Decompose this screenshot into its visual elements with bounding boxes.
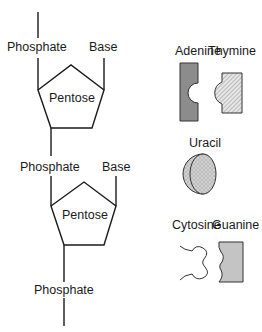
phosphate-label-2: Phosphate <box>20 161 80 174</box>
base-label-2: Base <box>102 161 131 174</box>
nucleotide-2 <box>51 176 116 326</box>
phosphate-label-3: Phosphate <box>34 284 94 297</box>
phosphate-label-1: Phosphate <box>7 41 67 54</box>
guanine-shape <box>219 242 243 282</box>
pentose-label-1: Pentose <box>49 92 95 105</box>
nucleotide-1 <box>38 12 104 156</box>
uracil-body <box>190 154 216 194</box>
uracil-label: Uracil <box>189 137 221 150</box>
thymine-shape <box>215 73 242 113</box>
guanine-label: Guanine <box>212 219 259 232</box>
thymine-label: Thymine <box>208 45 256 58</box>
pentose-label-2: Pentose <box>62 209 108 222</box>
cytosine-shape <box>180 246 208 280</box>
base-label-1: Base <box>89 41 118 54</box>
adenine-shape <box>180 63 198 121</box>
